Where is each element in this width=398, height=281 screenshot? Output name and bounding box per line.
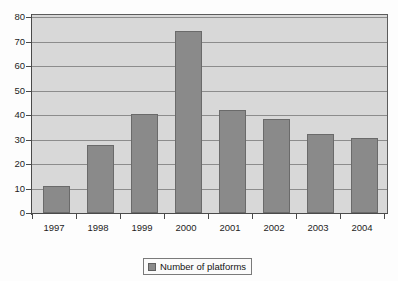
x-tick-2004 (340, 214, 341, 219)
y-axis-tick-label: 70 (1, 37, 25, 46)
bar-1997 (43, 186, 70, 213)
y-tick-50 (26, 91, 31, 92)
y-axis-labels: 80 70 60 50 40 30 20 10 0 (0, 0, 25, 281)
x-axis-tick-label: 1997 (32, 222, 76, 233)
y-axis-tick-label: 10 (1, 184, 25, 193)
chart-legend: Number of platforms (143, 258, 252, 275)
gridline-70 (32, 42, 387, 43)
bar-2002 (263, 119, 290, 213)
x-tick-2001 (208, 214, 209, 219)
square-swatch-icon (148, 263, 156, 271)
x-axis-tick-label: 1998 (76, 222, 120, 233)
y-axis-tick-label: 0 (1, 208, 25, 217)
y-axis-tick-label: 40 (1, 110, 25, 119)
x-axis-tick-label: 2001 (208, 222, 252, 233)
x-tick-1999 (120, 214, 121, 219)
plot-area (32, 15, 387, 213)
y-tick-80 (26, 17, 31, 18)
gridline-50 (32, 91, 387, 92)
y-tick-20 (26, 164, 31, 165)
bar-2001 (219, 110, 246, 213)
x-tick-2002 (252, 214, 253, 219)
x-tick-2000 (164, 214, 165, 219)
y-axis-tick-label: 60 (1, 61, 25, 70)
bar-chart-figure: 80 70 60 50 40 30 20 10 0 1997 1998 1999… (0, 0, 398, 281)
y-axis-tick-label: 80 (1, 12, 25, 21)
y-tick-40 (26, 115, 31, 116)
x-tick-1997 (32, 214, 33, 219)
y-axis-tick-label: 30 (1, 135, 25, 144)
bar-1998 (87, 145, 114, 213)
bar-2004 (351, 138, 378, 214)
gridline-60 (32, 66, 387, 67)
y-tick-70 (26, 42, 31, 43)
bar-2000 (175, 31, 202, 213)
legend-entry-label: Number of platforms (160, 262, 246, 272)
x-axis-tick-label: 2004 (340, 222, 384, 233)
x-tick-end (384, 214, 385, 219)
y-axis-tick-label: 50 (1, 86, 25, 95)
bar-2003 (307, 134, 334, 213)
bar-1999 (131, 114, 158, 213)
y-tick-60 (26, 66, 31, 67)
x-axis-tick-label: 1999 (120, 222, 164, 233)
x-axis-tick-label: 2000 (164, 222, 208, 233)
y-tick-30 (26, 140, 31, 141)
x-tick-2003 (296, 214, 297, 219)
gridline-80 (32, 17, 387, 18)
y-tick-10 (26, 189, 31, 190)
y-axis-line (31, 14, 32, 215)
y-axis-tick-label: 20 (1, 159, 25, 168)
x-axis-tick-label: 2003 (296, 222, 340, 233)
gridline-40 (32, 115, 387, 116)
x-axis-line (31, 213, 388, 214)
x-axis-tick-label: 2002 (252, 222, 296, 233)
x-tick-1998 (76, 214, 77, 219)
